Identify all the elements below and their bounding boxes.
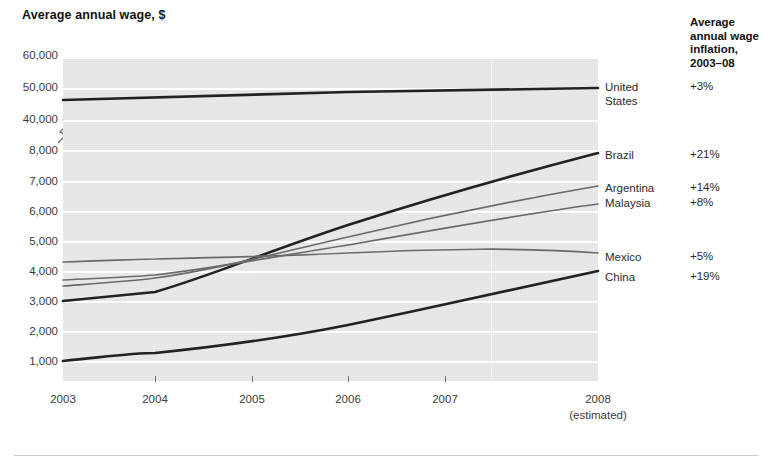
x-label-2007: 2007	[410, 393, 480, 405]
y-tick-60000: 60,000	[4, 49, 58, 61]
y-tick-2000: 2,000	[4, 325, 58, 337]
y-tick-7000: 7,000	[4, 175, 58, 187]
series-value-argentina: +14%	[690, 181, 750, 193]
series-value-brazil: +21%	[690, 148, 750, 160]
series-line-china	[63, 271, 598, 361]
series-label-united-states-line1: United	[605, 81, 638, 93]
y-tick-6000: 6,000	[4, 205, 58, 217]
x-label-2008-note: (estimated)	[553, 409, 643, 421]
series-label-malaysia: Malaysia	[605, 196, 650, 210]
series-label-mexico: Mexico	[605, 250, 641, 264]
y-tick-5000: 5,000	[4, 235, 58, 247]
footer-divider	[14, 455, 759, 456]
series-label-argentina: Argentina	[605, 181, 654, 195]
series-label-united-states: United States	[605, 80, 638, 108]
series-value-malaysia: +8%	[690, 196, 750, 208]
series-value-united-states: +3%	[690, 80, 750, 92]
y-tick-3000: 3,000	[4, 295, 58, 307]
x-label-2003: 2003	[28, 393, 98, 405]
series-line-malaysia	[63, 204, 598, 280]
series-line-mexico	[63, 249, 598, 262]
y-tick-4000: 4,000	[4, 265, 58, 277]
series-label-brazil: Brazil	[605, 148, 634, 162]
plot-area	[63, 57, 598, 381]
series-lines	[63, 57, 598, 381]
x-label-2004: 2004	[120, 393, 190, 405]
series-line-united-states	[63, 88, 598, 100]
y-tick-8000: 8,000	[4, 144, 58, 156]
chart-page: Average annual wage, $ Average annual wa…	[0, 0, 771, 470]
x-label-2005: 2005	[217, 393, 287, 405]
series-value-china: +19%	[690, 270, 750, 282]
y-tick-40000: 40,000	[4, 113, 58, 125]
series-label-china: China	[605, 270, 635, 284]
series-value-mexico: +5%	[690, 250, 750, 262]
series-label-united-states-line2: States	[605, 95, 638, 107]
x-label-2006: 2006	[313, 393, 383, 405]
inflation-column-title: Average annual wage inflation, 2003–08	[690, 16, 771, 70]
y-tick-50000: 50,000	[4, 81, 58, 93]
series-line-argentina	[63, 186, 598, 286]
x-label-2008: 2008	[563, 393, 633, 405]
y-tick-1000: 1,000	[4, 355, 58, 367]
